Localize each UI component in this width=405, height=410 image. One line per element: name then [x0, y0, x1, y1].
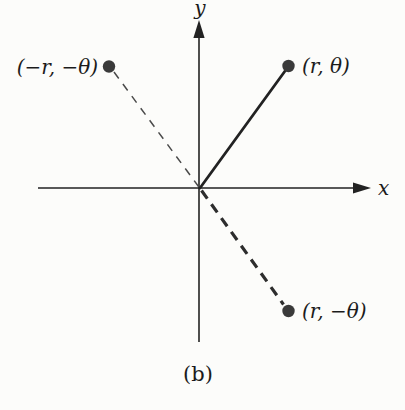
- segment-origin-to-r-theta: [200, 69, 287, 188]
- point-label-r-theta: (r, θ): [302, 54, 350, 78]
- point-label-neg-r-neg-theta: (−r, −θ): [17, 55, 98, 79]
- y-axis-arrowhead-icon: [193, 20, 204, 38]
- y-axis-label: y: [193, 0, 206, 20]
- x-axis-label: x: [378, 176, 389, 200]
- diagram-canvas: y x (r, θ) (−r, −θ) (r, −θ) (b): [0, 0, 405, 410]
- point-label-r-neg-theta: (r, −θ): [302, 299, 366, 323]
- point-dot-r-theta: [282, 60, 294, 72]
- segment-neg-r-neg-theta-to-origin: [114, 72, 199, 187]
- x-axis-arrowhead-icon: [353, 182, 371, 193]
- segment-origin-to-r-neg-theta: [202, 191, 284, 305]
- polar-coordinates-figure: y x (r, θ) (−r, −θ) (r, −θ) (b): [0, 0, 405, 410]
- point-dot-neg-r-neg-theta: [103, 60, 115, 72]
- point-dot-r-neg-theta: [282, 305, 294, 317]
- figure-caption: (b): [183, 362, 213, 386]
